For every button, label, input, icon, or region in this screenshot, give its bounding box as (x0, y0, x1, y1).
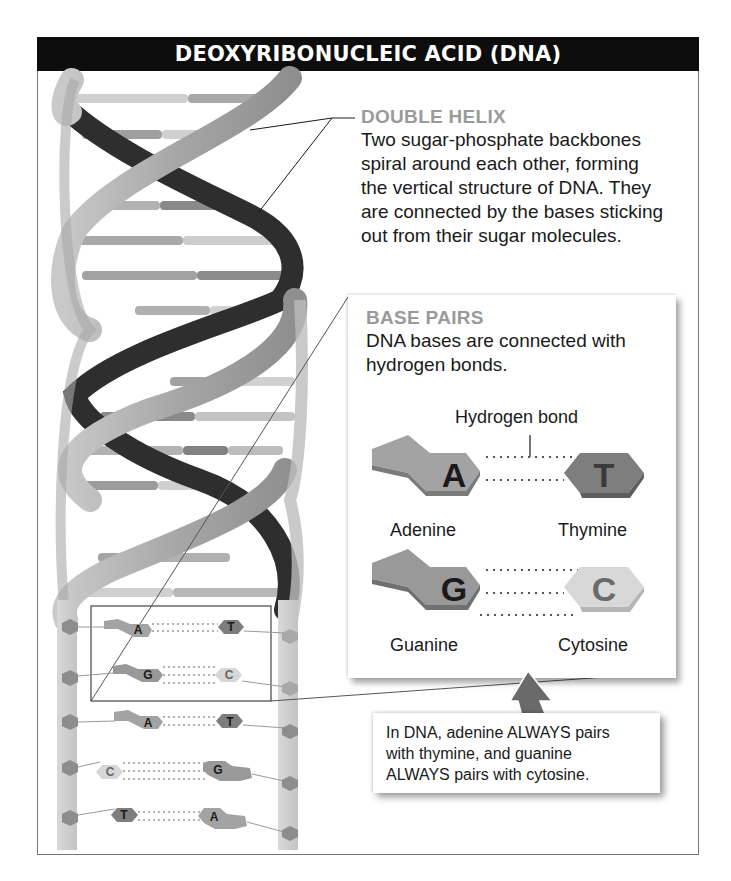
svg-text:C: C (225, 668, 234, 682)
svg-text:C: C (106, 765, 115, 779)
svg-text:A: A (210, 810, 219, 824)
svg-text:A: A (134, 623, 143, 637)
base-pairs-panel: BASE PAIRS DNA bases are connected with … (348, 295, 676, 678)
svg-text:T: T (227, 620, 235, 634)
svg-text:A: A (144, 716, 153, 730)
base-pair-diagrams: A T G C (348, 295, 676, 678)
svg-text:G: G (441, 570, 467, 608)
svg-text:G: G (213, 763, 222, 777)
guanine-cytosine-pair: G C (372, 549, 644, 615)
double-helix-description: Two sugar-phosphate backbones spiral aro… (361, 128, 663, 248)
svg-text:T: T (120, 808, 128, 822)
adenine-thymine-pair: A T (372, 435, 644, 498)
svg-text:T: T (594, 456, 615, 494)
pairing-rule-callout: In DNA, adenine ALWAYS pairs with thymin… (373, 713, 660, 793)
guanine-label: Guanine (390, 635, 458, 656)
ladder-rungs: A T G C A T C G (62, 619, 298, 841)
svg-text:T: T (226, 715, 234, 729)
thymine-label: Thymine (558, 520, 627, 541)
svg-text:A: A (442, 456, 467, 494)
svg-text:C: C (592, 570, 617, 608)
adenine-label: Adenine (390, 520, 456, 541)
double-helix-heading: DOUBLE HELIX (361, 106, 506, 128)
svg-text:G: G (143, 668, 152, 682)
cytosine-label: Cytosine (558, 635, 628, 656)
